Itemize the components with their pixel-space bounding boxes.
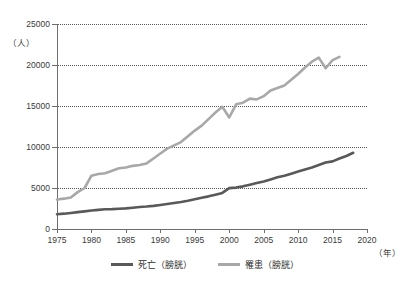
x-axis-tick: [91, 229, 92, 233]
legend-label: 罹患（膀胱）: [245, 258, 299, 271]
series-line: [57, 57, 339, 200]
y-axis-tick-label: 20000: [26, 60, 50, 70]
x-axis-tick: [367, 229, 368, 233]
y-axis-tick: [52, 147, 58, 148]
x-axis-tick: [229, 229, 230, 233]
x-axis-tick: [264, 229, 265, 233]
x-axis-tick-label: 2000: [220, 235, 239, 245]
chart-legend: 死亡（膀胱）罹患（膀胱）: [0, 258, 410, 271]
y-axis-tick-label: 25000: [26, 19, 50, 29]
x-axis-tick: [195, 229, 196, 233]
x-axis-tick: [333, 229, 334, 233]
y-axis-tick-label: 5000: [31, 183, 50, 193]
x-axis-tick-label: 2015: [323, 235, 342, 245]
y-axis-tick-label: 10000: [26, 142, 50, 152]
y-axis-tick-label: 0: [45, 224, 50, 234]
legend-swatch-icon: [218, 263, 240, 266]
x-axis-tick-label: 1990: [151, 235, 170, 245]
y-axis-tick: [52, 106, 58, 107]
x-axis-tick: [160, 229, 161, 233]
y-axis-tick-label: 15000: [26, 101, 50, 111]
x-axis-tick-label: 1985: [116, 235, 135, 245]
legend-label: 死亡（膀胱）: [138, 258, 192, 271]
x-axis-tick-label: 2005: [254, 235, 273, 245]
x-axis-tick-label: 2020: [358, 235, 377, 245]
series-line: [57, 153, 353, 215]
legend-swatch-icon: [111, 263, 133, 266]
x-axis-tick-label: 1995: [185, 235, 204, 245]
x-axis-tick-label: 2010: [289, 235, 308, 245]
series-layer: [57, 24, 367, 230]
x-axis-tick: [57, 229, 58, 233]
legend-item[interactable]: 死亡（膀胱）: [111, 258, 192, 271]
x-axis-tick-label: 1980: [82, 235, 101, 245]
y-axis-tick: [52, 24, 58, 25]
x-axis-tick: [298, 229, 299, 233]
bladder-cancer-line-chart: 0500010000150002000025000 （人） （年） 死亡（膀胱）…: [0, 0, 410, 290]
x-axis-unit-label: （年）: [374, 246, 401, 258]
y-axis-tick: [52, 188, 58, 189]
y-axis-unit-label: （人）: [8, 36, 35, 48]
x-axis-tick-label: 1975: [48, 235, 67, 245]
y-axis-tick: [52, 65, 58, 66]
legend-item[interactable]: 罹患（膀胱）: [218, 258, 299, 271]
x-axis-tick: [126, 229, 127, 233]
